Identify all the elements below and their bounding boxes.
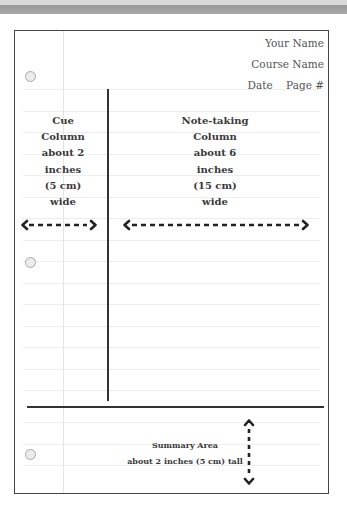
rule-line — [23, 369, 320, 370]
top-band — [0, 5, 347, 14]
header-block: Your Name Course Name Date Page # — [248, 33, 324, 96]
cue-column-label: Cue Column about 2 inches (5 cm) wide — [23, 113, 103, 210]
course-name: Course Name — [248, 54, 324, 75]
binder-hole-bottom — [25, 449, 36, 460]
rule-line — [23, 240, 320, 241]
cornell-notes-page: Your Name Course Name Date Page # Cue Co… — [14, 30, 329, 494]
summary-subtitle: about 2 inches (5 cm) tall — [110, 453, 260, 469]
summary-height-arrow-icon — [243, 419, 255, 485]
date-page: Date Page # — [248, 75, 324, 96]
top-bar — [0, 0, 347, 13]
margin-line — [63, 31, 64, 493]
rule-line — [23, 422, 320, 423]
rule-line — [23, 261, 320, 262]
summary-title: Summary Area — [110, 437, 260, 453]
summary-divider — [27, 406, 324, 408]
binder-hole-top — [25, 71, 36, 82]
note-width-arrow-icon — [123, 219, 309, 231]
note-column-label: Note-taking Column about 6 inches (15 cm… — [160, 113, 270, 210]
summary-label: Summary Area about 2 inches (5 cm) tall — [110, 437, 260, 469]
rule-line — [23, 304, 320, 305]
your-name: Your Name — [248, 33, 324, 54]
cue-width-arrow-icon — [21, 219, 97, 231]
rule-line — [23, 347, 320, 348]
rule-line — [23, 326, 320, 327]
cue-column-divider — [107, 89, 109, 401]
binder-hole-middle — [25, 257, 36, 268]
rule-line — [23, 390, 320, 391]
rule-line — [23, 283, 320, 284]
rule-line — [23, 111, 320, 112]
